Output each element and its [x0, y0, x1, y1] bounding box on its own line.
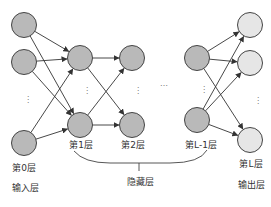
hidden-layer-bracket	[74, 150, 207, 163]
layers-ellipsis: …	[160, 80, 168, 88]
layer1-label: 第1层	[69, 141, 93, 150]
layer2-ellipsis: ⋮	[134, 87, 142, 95]
layer1-neuron	[68, 113, 93, 138]
connection-arrow	[32, 71, 71, 115]
connection-arrow	[208, 32, 239, 52]
layer-l-minus-1-label: 第L-1层	[185, 141, 217, 150]
output-layer-index-label: 第L层	[239, 160, 262, 169]
connection-arrow	[36, 59, 67, 61]
input-neuron	[12, 131, 37, 156]
layer1-ellipsis: ⋮	[83, 87, 91, 95]
connection-arrow	[36, 129, 68, 139]
layerLminus1-neuron	[185, 46, 210, 71]
output-layer-label: 输出层	[238, 181, 265, 190]
neural-network-diagram	[0, 0, 271, 207]
input-neuron	[12, 50, 37, 75]
hidden-layer-label: 隐藏层	[127, 178, 154, 187]
layer1-neuron	[68, 46, 93, 71]
connection-arrow	[30, 36, 74, 114]
layer2-neuron	[120, 46, 145, 71]
output-ellipsis: ⋮	[254, 97, 262, 105]
output-neuron	[238, 51, 263, 76]
output-neuron	[238, 128, 263, 153]
input-layer-label: 输入层	[12, 184, 39, 193]
layerLminus1-neuron	[185, 108, 210, 133]
connection-arrow	[206, 73, 242, 111]
input-layer-index-label: 第0层	[12, 164, 36, 173]
input-neuron	[12, 13, 37, 38]
connection-arrow	[35, 31, 69, 51]
neurons	[12, 13, 263, 156]
output-neuron	[238, 13, 263, 38]
layer2-label: 第2层	[121, 141, 145, 150]
connection-arrow	[209, 59, 237, 62]
connection-arrow	[209, 124, 238, 135]
layer-l-minus-1-ellipsis: ⋮	[200, 86, 208, 94]
input-ellipsis: ⋮	[24, 96, 32, 104]
layer2-neuron	[120, 113, 145, 138]
